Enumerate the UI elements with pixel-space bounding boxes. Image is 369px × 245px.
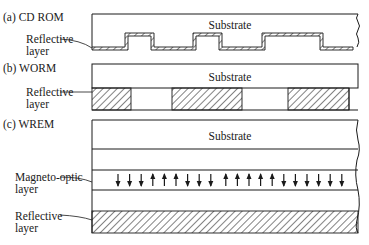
arrow-down-icon — [305, 174, 310, 187]
arrow-up-icon — [162, 173, 167, 186]
panel-b-title: (b) WORM — [3, 62, 56, 74]
arrow-up-icon — [270, 173, 275, 186]
magnetization-arrows — [116, 173, 345, 187]
arrow-down-icon — [339, 174, 344, 187]
arrow-down-icon — [127, 174, 132, 187]
cd-reflective-layer — [92, 33, 353, 50]
arrow-up-icon — [235, 173, 240, 186]
arrow-up-icon — [258, 173, 263, 186]
arrow-down-icon — [185, 174, 190, 187]
arrow-down-icon — [116, 174, 121, 187]
arrow-up-icon — [223, 173, 228, 186]
arrow-down-icon — [197, 174, 202, 187]
wrem-reflective-layer — [92, 211, 358, 233]
wrem-reflective-label-2: layer — [15, 222, 38, 234]
arrow-down-icon — [293, 174, 298, 187]
panel-c-title: (c) WREM — [3, 118, 54, 130]
wrem-substrate-label: Substrate — [190, 130, 270, 142]
arrow-up-icon — [150, 173, 155, 186]
arrow-down-icon — [281, 174, 286, 187]
worm-reflective-label: Reflective — [26, 86, 73, 98]
panel-a-title: (a) CD ROM — [3, 11, 64, 23]
wrem-reflective-label: Reflective — [15, 210, 62, 222]
arrow-up-icon — [247, 173, 252, 186]
arrow-down-icon — [208, 174, 213, 187]
magneto-optic-label-2: layer — [15, 183, 38, 195]
arrow-up-icon — [174, 173, 179, 186]
worm-reflective-block-3 — [288, 88, 349, 110]
worm-reflective-label-2: layer — [26, 98, 49, 110]
arrow-down-icon — [316, 174, 321, 187]
magneto-optic-label: Magneto-optic — [15, 171, 83, 183]
cd-reflective-label-2: layer — [26, 45, 49, 57]
arrow-down-icon — [328, 174, 333, 187]
worm-substrate-label: Substrate — [190, 71, 270, 83]
arrow-down-icon — [139, 174, 144, 187]
cd-reflective-label: Reflective — [26, 33, 73, 45]
cd-substrate-label: Substrate — [190, 19, 270, 31]
worm-reflective-block-2 — [172, 88, 242, 110]
worm-reflective-block-1 — [92, 88, 131, 110]
